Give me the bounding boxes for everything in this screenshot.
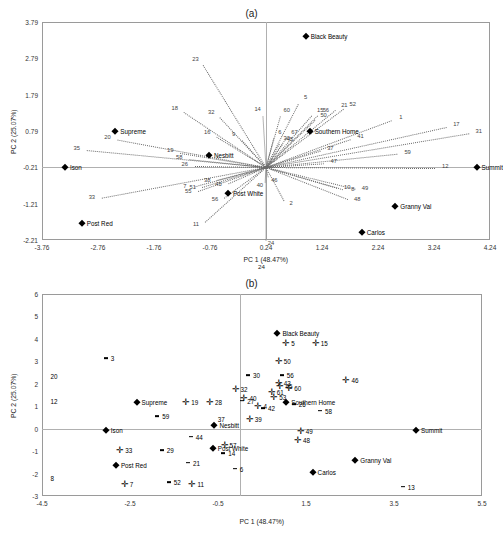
data-point-marker [240,400,244,402]
loading-vector-label: 33 [89,194,95,200]
x-axis-tick-label: -0.76 [203,244,218,251]
data-point-label: 28 [215,399,222,406]
cultivar-label: Southern Home [291,398,335,405]
loading-vector-label: 24 [268,240,274,246]
data-point-marker [280,374,284,376]
data-point-label: 27 [247,397,254,404]
loading-vector-label: 32 [208,109,214,115]
data-point-label: 50 [284,358,291,365]
x-axis-tick-label: 1.5 [301,500,310,507]
y-axis-tick-label: 5 [12,313,38,320]
loading-vector-label: 67 [291,129,297,135]
cultivar-label: Black Beauty [311,33,348,40]
data-point-marker [221,452,225,454]
cultivar-label: Carlos [367,229,385,236]
x-axis-tick-label: -0.5 [212,500,223,507]
loading-vector-label: 19 [167,147,173,153]
y-axis-tick-label: -0.21 [12,164,38,171]
panel-a: (a) PC 2 (25.07%) PC 1 (48.47%) 24 -3.76… [0,0,503,270]
data-point-label: 5 [291,340,295,347]
data-point-label: 11 [197,481,204,488]
loading-vector-label: 56 [212,196,218,202]
data-point-label: 60 [294,385,301,392]
cultivar-label: Southern Home [315,128,359,135]
data-point-marker [318,410,322,412]
data-point-label: 21 [193,459,200,466]
cultivar-label: Supreme [120,128,146,135]
data-point-label: 52 [174,479,181,486]
data-point-marker [155,415,159,417]
panel-b-x-axis-title: PC 1 (48.47%) [240,518,285,525]
loading-vector-label: 47 [330,158,336,164]
loading-vector-label: 6 [278,129,281,135]
y-axis-tick-label: 1 [12,403,38,410]
panel-a-x-axis-title: PC 1 (48.47%) [244,256,289,263]
loading-vector-label: 38 [204,177,210,183]
y-axis-tick-label: -2.21 [12,237,38,244]
loading-vector-label: 17 [453,121,459,127]
cultivar-label: Granny Val [400,203,431,210]
data-point-marker [189,436,193,438]
cultivar-label: Post Red [87,220,113,227]
loading-vector-label: 18 [172,105,178,111]
cultivar-label: Ison [111,426,123,433]
x-axis-tick-label: 4.24 [484,244,497,251]
data-point-label: 7 [130,481,134,488]
loading-vector-label: 40 [257,182,263,188]
cultivar-label: Black Beauty [282,330,319,337]
cultivar-label: Summit [421,426,442,433]
data-point-label: 12 [51,398,58,405]
data-point-label: 56 [287,372,294,379]
data-point-label: 44 [196,433,203,440]
loading-vector-label: 55 [185,188,191,194]
y-axis-tick-label: -2 [12,470,38,477]
loading-vector-label: 31 [476,128,482,134]
data-point-label: 6 [240,465,244,472]
cultivar-label: Nesbitt [219,422,239,429]
x-axis-tick-label: -3.76 [35,244,50,251]
loading-vector-label: 48 [354,196,360,202]
cultivar-label: Supreme [142,398,168,405]
loading-vector-label: 14 [254,106,260,112]
panel-a-title: (a) [0,8,503,19]
y-axis-tick-label: 3.79 [12,19,38,26]
data-point-label: 42 [268,405,275,412]
cultivar-label: Post White [233,190,263,197]
loading-vector-label: 45 [287,136,293,142]
loading-vector-label: 23 [192,56,198,62]
panel-b-plot-area [42,294,482,496]
cultivar-label: Summit [482,164,503,171]
loading-vector-line [266,168,267,241]
loading-vector-label: 12 [442,163,448,169]
loading-vector-label: 20 [104,134,110,140]
x-axis-tick-label: 1.24 [316,244,329,251]
cultivar-label: Carlos [318,469,336,476]
data-point-marker [401,486,405,488]
panel-a-x-axis-extra-label: 24 [258,263,265,270]
loading-vector-label: 49 [362,185,368,191]
x-axis-tick-label: -2.5 [124,500,135,507]
loading-vector-label: 52 [350,101,356,107]
loading-vector-label: 11 [193,221,199,227]
pca-biplot-figure: (a) PC 2 (25.07%) PC 1 (48.47%) 24 -3.76… [0,0,503,538]
y-axis-tick-label: 3 [12,358,38,365]
panel-b-title: (b) [0,278,503,289]
cultivar-label: Post White [218,445,248,452]
data-point-label: 33 [125,446,132,453]
cultivar-label: Post Red [121,462,147,469]
data-point-label: 49 [306,427,313,434]
y-axis-tick-label: -1.21 [12,200,38,207]
data-point-label: 8 [51,475,55,482]
data-point-label: 58 [325,407,332,414]
loading-vector-label: 16 [204,129,210,135]
loading-vector-label: 58 [176,154,182,160]
cultivar-label: Ison [70,164,82,171]
loading-vector-label: 60 [283,107,289,113]
x-axis-tick-label: -4.5 [36,500,47,507]
cultivar-label: Nesbitt [214,152,234,159]
data-point-label: 20 [51,372,58,379]
x-axis-tick-label: 3.24 [428,244,441,251]
loading-vector-label: 59 [404,149,410,155]
data-point-marker [167,481,171,483]
x-axis-tick-label: -2.76 [91,244,106,251]
